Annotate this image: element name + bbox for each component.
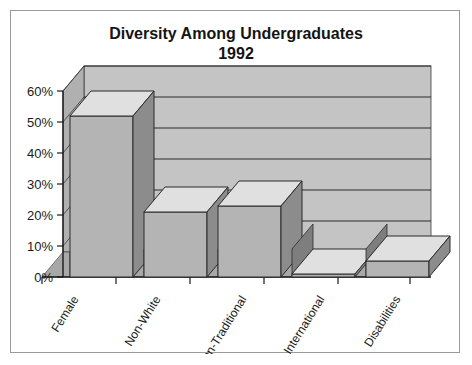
y-axis: 60% 50% 40% 30% 20% 10% 0%: [27, 84, 63, 285]
y-axis-labels: 60% 50% 40% 30% 20% 10% 0%: [27, 84, 53, 285]
x-tick-label-female: Female: [48, 293, 81, 335]
bar-front-disabilities: [366, 261, 429, 277]
x-tick-label-disabilities: Disabilities: [361, 293, 403, 349]
y-axis-ticks: [57, 91, 63, 277]
x-axis: [42, 277, 431, 284]
y-tick-label-10: 10%: [27, 239, 53, 254]
bar-front-female: [70, 116, 133, 277]
y-tick-label-40: 40%: [27, 146, 53, 161]
chart-frame: Diversity Among Undergraduates 1992: [10, 10, 460, 353]
bar-group-non-white[interactable]: [144, 187, 228, 277]
x-tick-label-international: International: [281, 293, 328, 354]
y-tick-label-50: 50%: [27, 115, 53, 130]
x-axis-labels: Female Non-White Non-Traditional Interna…: [48, 293, 403, 354]
x-tick-label-non-white: Non-White: [122, 293, 164, 349]
x-tick-label-non-traditional: Non-Traditional: [194, 293, 249, 354]
y-tick-label-20: 20%: [27, 208, 53, 223]
bar-front-non-white: [144, 212, 207, 277]
bar-chart: Diversity Among Undergraduates 1992: [11, 11, 461, 354]
y-tick-label-60: 60%: [27, 84, 53, 99]
bar-front-non-traditional: [218, 206, 281, 277]
bar-group-non-traditional[interactable]: [218, 181, 302, 277]
y-tick-label-30: 30%: [27, 177, 53, 192]
chart-title: Diversity Among Undergraduates: [109, 25, 363, 42]
chart-subtitle: 1992: [218, 45, 254, 62]
x-axis-ticks: [42, 277, 410, 284]
